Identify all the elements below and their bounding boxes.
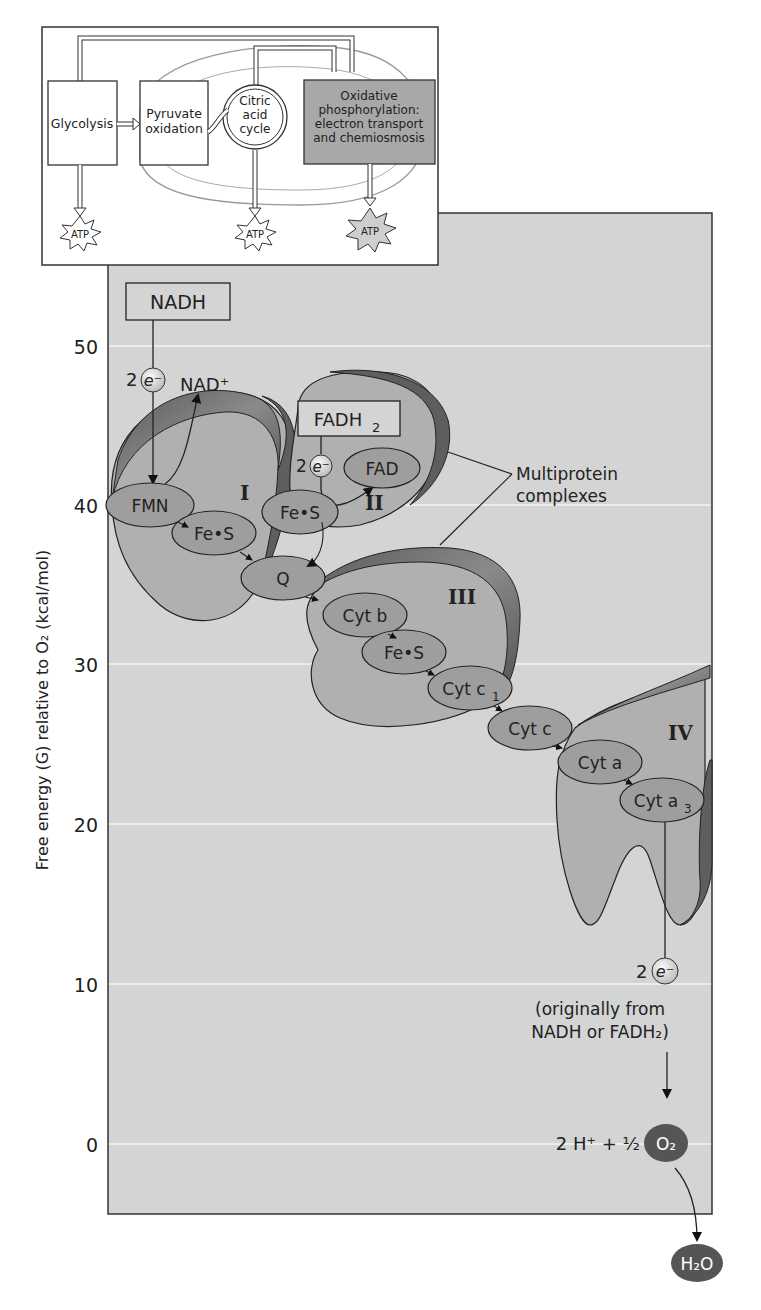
tick-50: 50 (74, 336, 98, 358)
svg-text:Cyt c: Cyt c (508, 719, 551, 739)
electron-count: 2 (296, 456, 307, 476)
carrier-fes-iii: Fe•S (362, 630, 446, 674)
carrier-cyt-c1: Cyt c 1 (428, 666, 512, 710)
svg-text:FMN: FMN (131, 496, 168, 516)
electron-count: 2 (126, 369, 137, 390)
svg-text:Cyt b: Cyt b (343, 606, 388, 626)
nadh-label: NADH (150, 291, 206, 313)
svg-text:Fe•S: Fe•S (384, 643, 424, 663)
o2-label: O₂ (656, 1134, 676, 1154)
tick-30: 30 (74, 654, 98, 676)
svg-text:electron transport: electron transport (315, 117, 424, 131)
svg-text:ATP: ATP (246, 229, 264, 240)
svg-text:3: 3 (684, 802, 692, 816)
svg-text:Cyt a: Cyt a (634, 791, 678, 811)
complex-ii-label: II (365, 491, 384, 515)
y-axis-label: Free energy (G) relative to O₂ (kcal/mol… (33, 550, 52, 871)
carrier-fes-ii: Fe•S (262, 490, 338, 534)
carrier-cyt-c: Cyt c (488, 706, 572, 750)
complex-iv-label: IV (668, 721, 693, 745)
svg-text:1: 1 (492, 690, 500, 704)
tick-0: 0 (86, 1134, 98, 1156)
fadh2-label: FADH (314, 409, 362, 430)
etc-diagram: 50 40 30 20 10 0 Free energy (G) relativ… (0, 0, 761, 1310)
carrier-cyt-a: Cyt a (558, 740, 642, 784)
multiprotein-label-1: Multiprotein (516, 464, 618, 484)
svg-text:Citric: Citric (239, 94, 270, 108)
respiration-overview-inset: Glycolysis Pyruvate oxidation Citric aci… (42, 27, 438, 265)
svg-text:oxidation: oxidation (145, 121, 203, 136)
multiprotein-label-2: complexes (516, 486, 607, 506)
svg-text:ATP: ATP (361, 226, 379, 237)
y-axis: 50 40 30 20 10 0 Free energy (G) relativ… (33, 336, 98, 1156)
h2o-label: H₂O (681, 1254, 714, 1274)
fadh2-subscript: 2 (372, 420, 380, 435)
svg-text:acid: acid (243, 108, 268, 122)
svg-text:cycle: cycle (239, 122, 270, 136)
carrier-fes-i: Fe•S (172, 511, 256, 555)
svg-text:Q: Q (276, 569, 289, 589)
complex-i-label: I (240, 481, 249, 505)
carrier-cyt-a3: Cyt a 3 (620, 778, 704, 822)
svg-text:Cyt c: Cyt c (442, 679, 485, 699)
svg-text:Oxidative: Oxidative (340, 89, 397, 103)
glycolysis-label: Glycolysis (51, 116, 113, 131)
svg-text:ATP: ATP (71, 229, 89, 240)
tick-40: 40 (74, 495, 98, 517)
svg-text:Pyruvate: Pyruvate (146, 106, 202, 121)
equation: 2 H⁺ + ½ (556, 1133, 640, 1154)
electron-count: 2 (636, 961, 647, 982)
electron-icon: e⁻ (144, 371, 162, 390)
svg-text:FAD: FAD (366, 459, 399, 479)
svg-text:Fe•S: Fe•S (280, 503, 320, 523)
svg-text:and chemiosmosis: and chemiosmosis (313, 131, 424, 145)
complex-iii-label: III (448, 585, 476, 609)
tick-20: 20 (74, 814, 98, 836)
svg-text:e⁻: e⁻ (656, 962, 674, 981)
svg-text:Fe•S: Fe•S (194, 524, 234, 544)
origin-note-1: (originally from (535, 999, 665, 1019)
electron-icon: e⁻ (312, 458, 329, 476)
origin-note-2: NADH or FADH₂) (531, 1022, 669, 1042)
nad-plus-label: NAD⁺ (180, 374, 229, 395)
tick-10: 10 (74, 974, 98, 996)
carrier-fad: FAD (344, 448, 420, 488)
svg-text:phosphorylation:: phosphorylation: (318, 103, 419, 117)
svg-text:Cyt a: Cyt a (578, 753, 622, 773)
